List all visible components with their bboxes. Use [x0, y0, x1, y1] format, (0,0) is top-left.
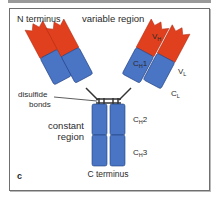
ch2-left-domain: [92, 104, 107, 135]
panel-label: c: [17, 171, 22, 181]
left-arm: [24, 17, 93, 85]
ch3-right-domain: [110, 135, 125, 166]
right-arm: [122, 17, 191, 89]
ch2-right-domain: [110, 104, 125, 135]
hinge: [86, 88, 131, 104]
ch2-label: CH2: [133, 115, 148, 125]
disulfide-label-line1: disulfide: [18, 90, 48, 99]
c-terminus-label: C terminus: [87, 169, 128, 179]
vl-label: VL: [178, 67, 186, 77]
disulfide-label-line2: bonds: [29, 100, 51, 109]
n-terminus-label: N terminus: [17, 14, 61, 24]
fc-region: [92, 104, 125, 166]
ch3-label: CH3: [133, 148, 148, 158]
constant-label-line2: region: [58, 131, 84, 142]
cl-label: CL: [171, 89, 180, 99]
disulfide-pointer: [54, 97, 97, 101]
antibody-diagram: N terminus variable region VH VL CH1 CL …: [0, 0, 221, 201]
constant-label-line1: constant: [48, 120, 84, 131]
variable-region-label: variable region: [82, 13, 144, 24]
ch3-left-domain: [92, 135, 107, 166]
